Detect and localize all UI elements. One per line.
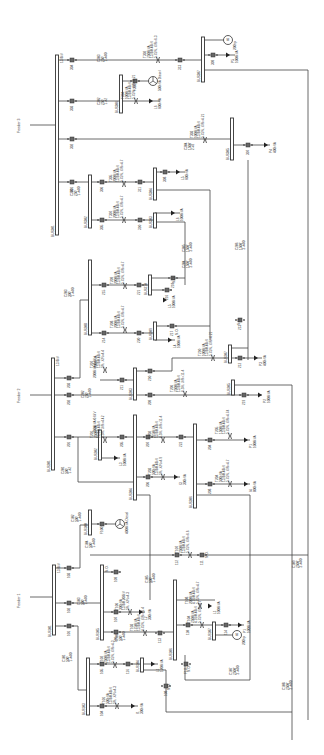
transformer-label: T204500kVA13.8/0.48kV5.75%, X/R=4.7 bbox=[215, 459, 230, 482]
cable-label: C2041500''2-#4/0 bbox=[182, 258, 193, 268]
load-arrow-icon bbox=[254, 356, 258, 361]
annotation: N.O. bbox=[172, 276, 176, 283]
breaker-201: 201 bbox=[64, 435, 74, 447]
cable-label: C105500''1-#4/0 bbox=[145, 573, 156, 583]
transformer-t303: T3031000kVA13.8/0.48kV5.75%, X/R=4.21 bbox=[190, 114, 207, 143]
load-arrow-icon bbox=[238, 623, 242, 628]
transformer-label: T2082000kVA13.8/0.48kV5.75%, X/R=4.7 bbox=[110, 305, 125, 328]
transformer-label: T203500kVA13.8/0.48kV5%, X/R=4.9 bbox=[148, 457, 163, 475]
transformer-t210: T2101000kVA13.8/0.48kV5.75%, X/R=4.21 bbox=[198, 332, 215, 361]
transformer-label: T106300kVA13.8/0.208kV5%, X/R=4.3 bbox=[115, 590, 130, 610]
load-p1b: P11000kVA bbox=[244, 434, 257, 448]
breaker-label: 215 bbox=[102, 289, 106, 295]
load-arrow-icon bbox=[244, 438, 248, 443]
transformer-t304: T3041000kVA13.8/0.48kV5.75%, X/R=4.21 bbox=[121, 75, 138, 104]
breaker-label: 313 bbox=[178, 64, 182, 70]
svg-text:M: M bbox=[236, 633, 239, 637]
bus-label: BUS202 bbox=[94, 448, 98, 460]
load-p1: P11000kVA bbox=[238, 619, 251, 633]
breaker-label: 109 bbox=[114, 576, 118, 582]
breaker-204: 204 bbox=[205, 438, 215, 450]
breaker-label: 102 bbox=[67, 607, 71, 613]
annotation: N.O. bbox=[237, 318, 241, 325]
cable-label: C3051500''2-#4/0 bbox=[182, 242, 193, 252]
load-l6b: L61000kVA bbox=[171, 207, 184, 221]
bus-label: BUS305 bbox=[226, 148, 230, 160]
transformer-t103: T1031750kVA13.8/0.48kV4.75%, X/R=11.4 bbox=[130, 607, 147, 636]
bus-bus107 bbox=[213, 622, 216, 640]
annotation: N.O. bbox=[187, 665, 191, 672]
transformer-t101: T101500kVA13.8/0.48kV5%, X/R=4.3 bbox=[102, 686, 119, 709]
bus-bus305 bbox=[231, 118, 234, 160]
breaker-label: 221 bbox=[137, 289, 141, 295]
breaker-304: 304 bbox=[67, 58, 77, 70]
load-p2: P21000kVA bbox=[258, 389, 271, 403]
breaker-label: 207 bbox=[146, 441, 150, 447]
bus-label: BUS105 bbox=[96, 628, 100, 640]
breaker-222: 222 bbox=[176, 435, 186, 447]
bus-label: BUS107 bbox=[208, 628, 212, 640]
bus-label: BUS210 bbox=[144, 283, 148, 295]
diagram-canvas: 304313309303F305302307301306311308305310… bbox=[0, 0, 324, 755]
bus-label: BUS101 bbox=[48, 625, 52, 637]
bus-label: BUS306 bbox=[115, 101, 119, 113]
one-line-diagram: 304313309303F305302307301306311308305310… bbox=[0, 0, 324, 755]
breaker-label: 107 bbox=[114, 616, 118, 622]
breaker-116: 116 bbox=[123, 662, 133, 674]
load-arrow-icon bbox=[208, 604, 212, 609]
load-arrow-icon bbox=[176, 170, 180, 175]
feeder-label: Feeder 3 bbox=[17, 119, 21, 133]
transformer-t202: T2022750kVA13.8/0.48kV6.5%, X/R=11.4 bbox=[148, 416, 165, 443]
breaker-label: 220 bbox=[137, 337, 141, 343]
bus-bus105 bbox=[101, 565, 104, 640]
breaker-label: 304 bbox=[70, 64, 74, 70]
bus-bus106 bbox=[174, 580, 177, 660]
generator-g100: 4000kVA Diesel bbox=[116, 511, 130, 534]
load-label: L31000kVA bbox=[119, 452, 127, 466]
load-label: P11000kVA bbox=[249, 434, 257, 448]
breaker-label: 211 bbox=[120, 385, 124, 390]
source-label: 200hp bbox=[233, 41, 237, 50]
breaker-212: 212 bbox=[235, 356, 245, 368]
transformer-label: T3072000kVA13.8/0.48kV5.75%, X/R=4.7 bbox=[109, 195, 124, 218]
breaker-label: 209 bbox=[148, 399, 152, 405]
load-l1b: L11000kVA bbox=[208, 600, 221, 614]
transformer-t205: T2051500kVA13.8/0.48kV5.75%, X/R=4.74 bbox=[215, 410, 232, 439]
transformer-label: T2062500kVA13.8/0.48kV6.5%, X/R=11.4 bbox=[170, 370, 185, 392]
bus-bus302 bbox=[89, 175, 92, 228]
annotation: N.O. bbox=[205, 551, 209, 558]
breaker-302: 302 bbox=[67, 137, 77, 149]
breaker-208: 208 bbox=[205, 482, 215, 494]
bus-bus204 bbox=[134, 415, 137, 500]
breaker-label: 203 bbox=[67, 382, 71, 388]
bus-bus303 bbox=[154, 213, 157, 228]
breaker-309: 309 bbox=[208, 53, 218, 65]
cable-label: C103500''1-#4/0 bbox=[77, 595, 88, 605]
load-arrow-icon bbox=[258, 393, 262, 398]
bus-label: BUS207 bbox=[224, 351, 228, 363]
breaker-label: 111 bbox=[200, 560, 204, 565]
cable-label: C202250''1-#4/0 bbox=[81, 388, 92, 398]
breaker-303: 303 bbox=[67, 99, 77, 111]
load-arrow-icon bbox=[149, 99, 153, 104]
feeder-label: Feeder 1 bbox=[17, 594, 21, 608]
breaker-103: 103 bbox=[64, 566, 74, 578]
breaker-label: 108 bbox=[164, 690, 168, 696]
breaker-label: 210 bbox=[148, 375, 152, 381]
breaker-label: 311 bbox=[138, 187, 142, 192]
breaker-220: 220 bbox=[134, 331, 144, 343]
transformer-t204: T204500kVA13.8/0.48kV5.75%, X/R=4.7 bbox=[215, 459, 232, 487]
source-label: 4000kVA Diesel bbox=[125, 511, 129, 534]
cable-label: C101500''1-#4/0 bbox=[62, 652, 73, 662]
generator-g305: 500kVA Diesel bbox=[149, 70, 163, 91]
load-i1: I1300kVA bbox=[131, 702, 144, 714]
breaker-102: 102 bbox=[64, 601, 74, 613]
cable-label: C201500''1-#2 bbox=[61, 466, 72, 474]
bus-voltage-label: 13.8kV bbox=[57, 562, 61, 573]
bus-bus307 bbox=[202, 37, 205, 82]
bus-bus209 bbox=[154, 322, 157, 340]
cable-label: C3041500'2-#2 bbox=[184, 142, 195, 150]
breaker-203: 203 bbox=[64, 376, 74, 388]
load-l6: L6600kVA bbox=[149, 97, 162, 109]
annotation: N.O. bbox=[175, 328, 179, 335]
